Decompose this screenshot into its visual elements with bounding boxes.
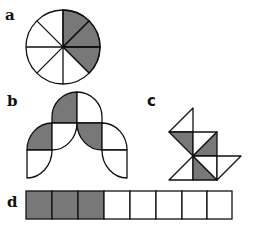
figure-d-bar [26,191,232,219]
figure-a-circle [26,10,100,84]
figure-b-arches [27,92,127,178]
fraction-figures [0,0,258,225]
figure-c-triangles [169,108,241,180]
